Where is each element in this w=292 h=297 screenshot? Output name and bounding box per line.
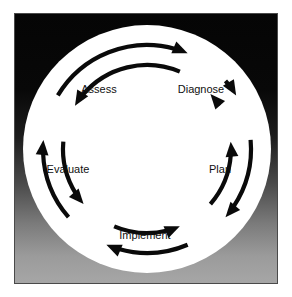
stage-label-implement: Implement: [119, 229, 170, 241]
arrow-set: [36, 42, 251, 257]
diagram-frame: Assess Diagnose Plan Implement Evaluate: [14, 13, 278, 284]
stage-label-assess: Assess: [81, 83, 117, 95]
cycle-diagram: Assess Diagnose Plan Implement Evaluate: [0, 0, 292, 297]
arrow-diagnose-plan-forward-head: [225, 202, 240, 218]
arrows-and-labels-layer: Assess Diagnose Plan Implement Evaluate: [15, 14, 278, 284]
arrow-implement-evaluate-forward-head: [36, 140, 49, 156]
arrow-assess-diagnose-reverse-head: [210, 94, 225, 110]
arrow-plan-implement-forward-shaft: [119, 245, 188, 253]
arrow-implement-evaluate-reverse-head: [69, 189, 84, 205]
stage-label-evaluate: Evaluate: [47, 163, 90, 175]
stage-label-diagnose: Diagnose: [178, 83, 224, 95]
arrow-diagnose-plan-reverse-head: [226, 142, 239, 158]
stage-label-plan: Plan: [209, 163, 231, 175]
arrow-diagnose-plan-forward-shaft: [233, 140, 251, 207]
